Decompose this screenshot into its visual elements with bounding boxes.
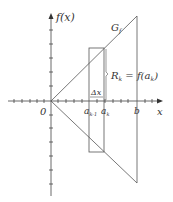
origin-label: 0 (40, 106, 47, 117)
rect-height-label: Rk = f(ak) (110, 70, 158, 82)
riemann-rectangle (89, 48, 104, 152)
tick-label-b: b (134, 106, 140, 116)
y-axis-label: f(x) (55, 11, 75, 24)
dx-label: Δx (90, 88, 102, 97)
y-axis-arrow-icon (49, 13, 54, 19)
x-axis-arrow-icon (157, 99, 163, 104)
brace-icon (106, 49, 108, 100)
riemann-diagram: f(x) x 0 Gf Δx Rk = f(ak) ak-1 ak b (0, 0, 173, 202)
curve-label: Gf (111, 22, 123, 35)
tick-label-a-prev: ak-1 (84, 106, 97, 117)
tick-label-a: ak (101, 106, 109, 117)
x-axis-label: x (157, 106, 163, 117)
